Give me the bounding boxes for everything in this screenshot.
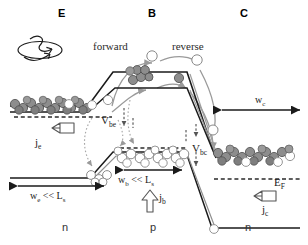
potential-label-vbe: Vbe	[101, 115, 116, 129]
base-holes	[114, 146, 189, 167]
width-label-we: we << Ls	[30, 191, 65, 204]
vbe-sub: be	[109, 120, 116, 129]
region-label-collector: C	[240, 8, 248, 19]
wb-sub2: s	[151, 180, 154, 188]
material-label-emitter: n	[62, 222, 68, 233]
bias-label-reverse: reverse	[172, 41, 204, 52]
spin-precession-icon	[18, 36, 62, 60]
we-sub2: s	[63, 196, 66, 204]
jc-sub: c	[265, 209, 268, 218]
fermi-level-label: EF	[274, 177, 285, 191]
vbc-sub: bc	[200, 148, 207, 157]
width-arrows	[18, 110, 300, 186]
current-label-jb: jb	[159, 192, 166, 206]
material-label-base: p	[150, 222, 156, 233]
region-label-emitter: E	[58, 8, 65, 19]
current-arrow-jb	[142, 190, 158, 212]
je-sub: e	[38, 142, 41, 151]
we-mid: << L	[40, 190, 62, 201]
band-diagram-figure: E B C forward reverse n p n Vbe Vbc je j…	[0, 0, 308, 245]
width-label-wc: wc	[255, 95, 265, 108]
region-label-base: B	[148, 8, 156, 19]
valence-band-second	[92, 156, 216, 230]
ef-base: E	[274, 176, 281, 188]
current-arrow-je	[52, 123, 74, 133]
potential-label-vbc: Vbc	[192, 143, 207, 157]
wc-sub1: c	[262, 100, 265, 108]
current-arrow-jc	[254, 191, 276, 201]
collector-electrons	[213, 145, 294, 166]
wb-mid: << L	[129, 174, 151, 185]
current-label-je: je	[35, 137, 41, 151]
material-label-collector: n	[245, 222, 251, 233]
vbe-base: V	[101, 114, 109, 126]
vbc-base: V	[192, 142, 200, 154]
width-label-wb: wb << Ls	[118, 175, 154, 188]
bias-label-forward: forward	[93, 41, 128, 52]
ef-sub: F	[281, 182, 285, 191]
jb-sub: b	[162, 197, 166, 206]
current-label-jc: jc	[262, 204, 268, 218]
